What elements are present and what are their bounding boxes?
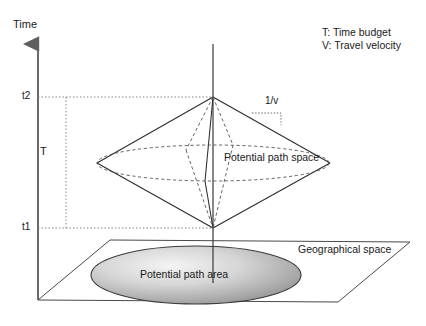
geographical-space-label: Geographical space <box>298 243 391 255</box>
time-budget-guides <box>38 97 213 228</box>
time-axis-title: Time <box>13 18 37 31</box>
cone-meridian-front-lower <box>205 181 213 228</box>
slope-label: 1/v <box>265 95 278 107</box>
cone-meridian-back-upper <box>213 97 233 145</box>
cone-edge-top-left <box>97 97 213 163</box>
tick-label-t2: t2 <box>22 90 30 102</box>
legend-item-time-budget: T: Time budget <box>322 26 391 38</box>
cone-hidden-meridian-left-lower <box>186 150 213 228</box>
slope-right-angle <box>252 113 281 125</box>
potential-path-area-label: Potential path area <box>140 268 228 280</box>
cone-edge-bottom-left <box>97 163 213 228</box>
potential-path-space-label: Potential path space <box>224 151 319 163</box>
slope-marker <box>252 113 281 125</box>
time-budget-label: T <box>40 145 47 158</box>
legend-item-travel-velocity: V: Travel velocity <box>322 39 401 51</box>
tick-label-t1: t1 <box>22 221 30 233</box>
space-time-prism-figure: Time t2 t1 T 1/v Potential path space Po… <box>0 0 426 326</box>
